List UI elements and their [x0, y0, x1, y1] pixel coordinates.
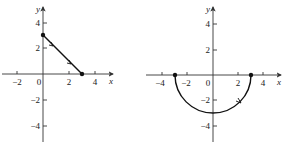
- left-endpoint-start: [41, 33, 45, 37]
- right-endpoint-end: [249, 73, 253, 77]
- right-x-tick-label: 4: [261, 78, 266, 88]
- direction-arrow-icon: [67, 60, 71, 64]
- left-y-axis-label: y: [35, 4, 40, 14]
- left-line-segment: [43, 35, 82, 74]
- left-endpoint-end: [80, 72, 84, 76]
- right-y-tick-label: 4: [206, 19, 211, 29]
- left-origin-label: 0: [37, 77, 42, 87]
- direction-arrow-icon: [49, 42, 53, 46]
- right-y-axis-label: y: [205, 4, 210, 14]
- right-x-tick-label: 2: [236, 78, 241, 88]
- left-y-tick-label: 2: [36, 43, 41, 53]
- left-x-tick-label: −2: [12, 77, 22, 87]
- left-y-tick-label: −4: [30, 121, 40, 131]
- right-y-tick-label: −2: [200, 95, 210, 105]
- right-y-tick-label: −4: [200, 121, 210, 131]
- right-x-tick-label: −2: [181, 78, 191, 88]
- left-x-axis-label: x: [108, 76, 113, 86]
- right-endpoint-start: [173, 73, 177, 77]
- right-x-tick-label: −4: [155, 78, 165, 88]
- right-y-tick-label: 2: [206, 45, 211, 55]
- left-x-tick-label: 4: [93, 77, 98, 87]
- left-plot: −2 0 2 4 4 2 −2 −4 y x: [2, 4, 113, 142]
- right-plot: −4 −2 0 2 4 4 2 −2 −4 y x: [146, 4, 281, 142]
- left-y-tick-label: −2: [30, 95, 40, 105]
- figure-canvas: −2 0 2 4 4 2 −2 −4 y x: [0, 0, 285, 146]
- right-origin-label: 0: [206, 78, 211, 88]
- left-y-tick-label: 4: [36, 18, 41, 28]
- right-x-axis-label: x: [276, 77, 281, 87]
- left-x-tick-label: 2: [67, 77, 72, 87]
